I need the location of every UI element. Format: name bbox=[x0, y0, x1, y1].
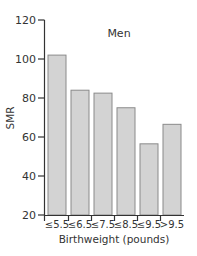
x-axis-ticks: ≤5.5≤6.5≤7.5≤8.5≤9.5>9.5 bbox=[45, 215, 185, 230]
x-tick-label: ≤8.5 bbox=[114, 219, 138, 230]
bar bbox=[94, 93, 112, 215]
y-axis-ticks: 20406080100120 bbox=[15, 14, 45, 222]
y-tick-label: 120 bbox=[15, 14, 36, 27]
x-tick-label: ≤7.5 bbox=[91, 219, 115, 230]
bar bbox=[71, 90, 89, 215]
x-tick-label: >9.5 bbox=[160, 219, 184, 230]
y-tick-label: 60 bbox=[22, 131, 36, 144]
x-tick-label: ≤5.5 bbox=[45, 219, 69, 230]
y-tick-label: 100 bbox=[15, 53, 36, 66]
bars-group bbox=[48, 55, 181, 215]
y-tick-label: 20 bbox=[22, 209, 36, 222]
x-tick-label: ≤6.5 bbox=[68, 219, 92, 230]
x-axis-title: Birthweight (pounds) bbox=[59, 233, 170, 245]
y-axis-title: SMR bbox=[4, 106, 16, 129]
chart-title: Men bbox=[107, 27, 130, 40]
y-tick-label: 80 bbox=[22, 92, 36, 105]
x-tick-label: ≤9.5 bbox=[137, 219, 161, 230]
bar bbox=[48, 55, 66, 215]
y-tick-label: 40 bbox=[22, 170, 36, 183]
bar bbox=[140, 144, 158, 215]
bar bbox=[117, 108, 135, 215]
bar-chart: Men 20406080100120 ≤5.5≤6.5≤7.5≤8.5≤9.5>… bbox=[0, 0, 197, 256]
bar bbox=[163, 124, 181, 215]
